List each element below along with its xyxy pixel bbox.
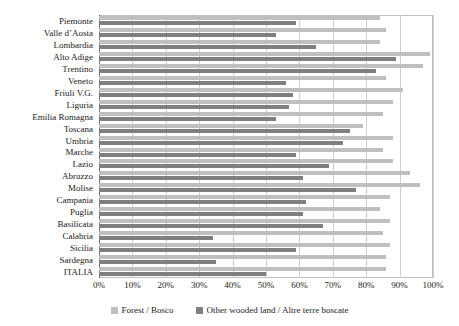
category-label: Liguria bbox=[67, 100, 94, 110]
bar-other-wooded-land bbox=[99, 272, 266, 276]
category-label: Veneto bbox=[68, 76, 93, 86]
legend-swatch-icon bbox=[196, 307, 203, 314]
bar-group bbox=[99, 28, 433, 39]
bar-other-wooded-land bbox=[99, 212, 303, 216]
legend-item: Forest / Bosco bbox=[111, 305, 174, 316]
category-label: Sicilia bbox=[70, 243, 93, 253]
category-label: Calabria bbox=[63, 231, 94, 241]
category-label: Puglia bbox=[70, 207, 93, 217]
gridline bbox=[433, 15, 434, 278]
category-label: Valle d’Aosta bbox=[44, 28, 93, 38]
category-label: Sardegna bbox=[60, 255, 94, 265]
bar-other-wooded-land bbox=[99, 33, 276, 37]
bar-group bbox=[99, 136, 433, 147]
bar-group bbox=[99, 255, 433, 266]
bar-forest bbox=[99, 207, 380, 211]
bar-other-wooded-land bbox=[99, 248, 296, 252]
category-label: Emilia Romagna bbox=[32, 112, 93, 122]
bar-group bbox=[99, 16, 433, 27]
bar-forest bbox=[99, 52, 430, 56]
bar-forest bbox=[99, 136, 393, 140]
bar-other-wooded-land bbox=[99, 164, 329, 168]
bar-forest bbox=[99, 148, 383, 152]
bar-other-wooded-land bbox=[99, 81, 286, 85]
bar-group bbox=[99, 52, 433, 63]
bar-forest bbox=[99, 195, 390, 199]
bar-forest bbox=[99, 40, 380, 44]
bar-group bbox=[99, 219, 433, 230]
bar-other-wooded-land bbox=[99, 105, 289, 109]
category-label: Friuli V.G. bbox=[55, 88, 93, 98]
bar-other-wooded-land bbox=[99, 117, 276, 121]
bar-forest bbox=[99, 183, 420, 187]
bar-group bbox=[99, 148, 433, 159]
bar-other-wooded-land bbox=[99, 224, 323, 228]
category-label: Umbria bbox=[66, 136, 94, 146]
bar-group bbox=[99, 171, 433, 182]
bar-other-wooded-land bbox=[99, 93, 293, 97]
bar-group bbox=[99, 40, 433, 51]
bar-other-wooded-land bbox=[99, 45, 316, 49]
category-label: Piemonte bbox=[59, 16, 93, 26]
bar-other-wooded-land bbox=[99, 236, 213, 240]
category-label: Lazio bbox=[73, 159, 94, 169]
category-label: Alto Adige bbox=[53, 52, 93, 62]
bar-other-wooded-land bbox=[99, 21, 296, 25]
bar-other-wooded-land bbox=[99, 188, 356, 192]
x-tick-label: 100% bbox=[413, 280, 453, 291]
bar-group bbox=[99, 207, 433, 218]
bar-forest bbox=[99, 267, 386, 271]
bar-forest bbox=[99, 231, 383, 235]
category-label: Trentino bbox=[62, 64, 93, 74]
legend-label: Other wooded land / Altre terre boscate bbox=[207, 305, 349, 316]
category-label: Marche bbox=[66, 147, 93, 157]
category-axis-labels: PiemonteValle d’AostaLombardiaAlto Adige… bbox=[0, 15, 96, 278]
category-label: Abruzzo bbox=[62, 171, 93, 181]
bar-forest bbox=[99, 255, 386, 259]
bar-other-wooded-land bbox=[99, 141, 343, 145]
bar-group bbox=[99, 183, 433, 194]
bar-group bbox=[99, 243, 433, 254]
category-label: Campania bbox=[57, 195, 94, 205]
bar-other-wooded-land bbox=[99, 153, 296, 157]
bar-other-wooded-land bbox=[99, 57, 396, 61]
bar-group bbox=[99, 64, 433, 75]
legend-swatch-icon bbox=[111, 307, 118, 314]
bar-forest bbox=[99, 159, 393, 163]
bar-forest bbox=[99, 16, 380, 20]
bar-forest bbox=[99, 88, 403, 92]
bar-forest bbox=[99, 112, 383, 116]
legend-item: Other wooded land / Altre terre boscate bbox=[196, 305, 349, 316]
bar-forest bbox=[99, 171, 410, 175]
bar-forest bbox=[99, 64, 423, 68]
bar-other-wooded-land bbox=[99, 176, 303, 180]
bar-other-wooded-land bbox=[99, 129, 350, 133]
category-label: Molise bbox=[68, 183, 93, 193]
legend-label: Forest / Bosco bbox=[122, 305, 174, 316]
bar-group bbox=[99, 112, 433, 123]
bar-forest bbox=[99, 100, 393, 104]
bar-forest bbox=[99, 243, 390, 247]
forest-cover-bar-chart: PiemonteValle d’AostaLombardiaAlto Adige… bbox=[0, 0, 459, 326]
bar-group bbox=[99, 88, 433, 99]
category-label: ITALIA bbox=[64, 267, 93, 277]
bar-group bbox=[99, 124, 433, 135]
value-axis-labels: 0%10%20%30%40%50%60%70%80%90%100% bbox=[0, 280, 459, 294]
bar-group bbox=[99, 195, 433, 206]
bar-other-wooded-land bbox=[99, 69, 376, 73]
bar-other-wooded-land bbox=[99, 200, 306, 204]
bar-other-wooded-land bbox=[99, 260, 216, 264]
bar-forest bbox=[99, 28, 386, 32]
bars-layer bbox=[99, 15, 433, 278]
bar-group bbox=[99, 76, 433, 87]
category-label: Basilicata bbox=[58, 219, 94, 229]
bar-group bbox=[99, 100, 433, 111]
category-label: Toscana bbox=[64, 124, 93, 134]
category-label: Lombardia bbox=[54, 40, 94, 50]
bar-group bbox=[99, 267, 433, 278]
bar-forest bbox=[99, 124, 363, 128]
bar-forest bbox=[99, 76, 386, 80]
bar-group bbox=[99, 231, 433, 242]
bar-forest bbox=[99, 219, 390, 223]
chart-legend: Forest / BoscoOther wooded land / Altre … bbox=[0, 302, 459, 318]
